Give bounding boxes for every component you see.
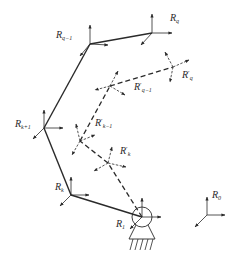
label-sub: k+1 — [21, 124, 31, 130]
label-rkp: R′k — [120, 146, 130, 157]
ground-hatch-icon — [130, 239, 153, 250]
label-sub: q — [190, 75, 193, 81]
vlink-k1-to-q1 — [80, 86, 110, 141]
label-r1: R1 — [116, 219, 125, 230]
label-rk: Rk — [55, 182, 64, 193]
frame-rk1-axes-icon — [33, 110, 63, 139]
label-sub: q — [176, 18, 179, 24]
link-k1-to-q1 — [44, 44, 90, 128]
label-sub: k−1 — [103, 123, 113, 129]
label-sub: 0 — [218, 195, 221, 201]
vlink-k-to-k1 — [80, 141, 108, 163]
label-rq: Rq — [170, 13, 179, 24]
label-rq1p: R′q−1 — [134, 82, 152, 93]
label-sub: 1 — [122, 224, 125, 230]
frame-r0-axes-icon — [195, 197, 225, 227]
link-q1-to-q — [90, 33, 152, 44]
label-sub: k — [61, 187, 64, 193]
frame-rk-axes-icon — [60, 177, 89, 206]
label-sub: q−1 — [62, 35, 72, 41]
label-rq1: Rq−1 — [56, 30, 72, 41]
label-rk1: Rk+1 — [15, 119, 31, 130]
frame-rq-axes-icon — [141, 14, 172, 45]
label-r0: R0 — [212, 190, 221, 201]
label-rqp: R′q — [182, 70, 193, 81]
virtual-chain — [80, 67, 173, 217]
frame-rq1-axes-icon — [80, 25, 108, 56]
label-sub: k — [128, 151, 131, 157]
label-rk1p: R′k−1 — [95, 118, 112, 129]
label-sub: q−1 — [142, 87, 152, 93]
link-base-to-k — [71, 195, 142, 217]
